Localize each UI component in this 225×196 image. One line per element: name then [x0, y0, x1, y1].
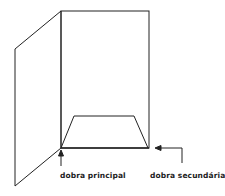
trapezoid-fold: [61, 116, 148, 148]
secondary-fold-label: dobra secundária: [150, 171, 225, 180]
fold-drawing: [0, 0, 225, 196]
back-panel: [61, 11, 149, 148]
secondary-fold-arrow: [155, 146, 182, 164]
main-fold-arrow: [59, 150, 64, 166]
main-fold-label: dobra principal: [60, 171, 126, 180]
left-panel: [15, 11, 61, 186]
fold-diagram: dobra principal dobra secundária: [0, 0, 225, 196]
